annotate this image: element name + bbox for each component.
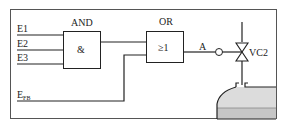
input-e3-label: E3 [17, 52, 28, 63]
logic-diagram: E1 E2 E3 AND & EFB OR ≥1 A VC2 [0, 0, 284, 128]
input-e2-label: E2 [17, 38, 28, 49]
output-label: A [199, 41, 207, 52]
negation-circle-icon [216, 49, 223, 56]
and-gate-symbol: & [77, 44, 85, 55]
and-gate-title: AND [71, 17, 93, 28]
input-e1-label: E1 [17, 23, 28, 34]
or-gate-title: OR [159, 16, 173, 27]
or-gate-symbol: ≥1 [158, 42, 169, 53]
tank-liquid [217, 108, 276, 119]
valve-label: VC2 [249, 47, 268, 58]
